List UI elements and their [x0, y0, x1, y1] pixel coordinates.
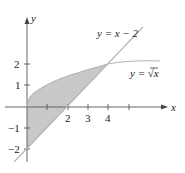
- line-label: y = x − 2: [96, 27, 139, 39]
- x-axis-label: x: [170, 101, 176, 113]
- y-axis-arrow-icon: [25, 17, 30, 24]
- y-axis-label: y: [30, 12, 36, 24]
- tick-label-x4: 4: [105, 112, 111, 124]
- tick-label-ym1: −1: [8, 122, 20, 134]
- x-axis-arrow-icon: [161, 105, 168, 110]
- tick-label-x2: 2: [65, 112, 71, 124]
- sqrt-label: y = √x: [129, 67, 159, 79]
- sqrt-label-prefix: y =: [129, 67, 148, 79]
- sqrt-label-arg: x: [153, 67, 159, 79]
- tick-label-x3: 3: [85, 112, 91, 124]
- tick-label-ym2: −2: [8, 143, 20, 155]
- tick-label-y1: 1: [15, 79, 21, 91]
- graph: y x y = x − 2 y = √x 2 3 4 2 1 −1 −2: [0, 0, 185, 173]
- tick-label-y2: 2: [14, 58, 20, 70]
